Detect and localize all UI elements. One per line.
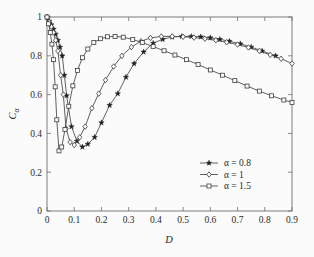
- x-tick-label: 0.5: [177, 215, 189, 225]
- y-tick-label: 0.6: [30, 90, 42, 100]
- x-tick-label: 0.1: [68, 215, 80, 225]
- y-tick-label: 1: [37, 12, 42, 22]
- chart-svg: 00.10.20.30.40.50.60.70.80.9 00.20.40.60…: [0, 0, 314, 257]
- x-tick-label: 0.6: [204, 215, 216, 225]
- chart-legend: α = 0.8α = 1α = 1.5: [200, 158, 251, 191]
- x-tick-label: 0.3: [123, 215, 135, 225]
- y-tick-label: 0.8: [30, 51, 42, 61]
- x-tick-label: 0.8: [259, 215, 271, 225]
- x-axis-title: D: [164, 234, 173, 245]
- legend-label: α = 1.5: [224, 181, 251, 191]
- chart-figure-root: 00.10.20.30.40.50.60.70.80.9 00.20.40.60…: [0, 0, 314, 257]
- x-tick-label: 0.9: [286, 215, 298, 225]
- x-tick-label: 0.4: [150, 215, 162, 225]
- x-tick-label: 0.2: [96, 215, 108, 225]
- x-tick-label: 0: [45, 215, 50, 225]
- legend-label: α = 0.8: [224, 158, 251, 168]
- y-tick-label: 0.2: [30, 168, 42, 178]
- x-tick-label: 0.7: [232, 215, 244, 225]
- y-tick-label: 0.4: [30, 129, 42, 139]
- legend-label: α = 1: [224, 170, 244, 180]
- y-tick-label: 0: [37, 206, 42, 216]
